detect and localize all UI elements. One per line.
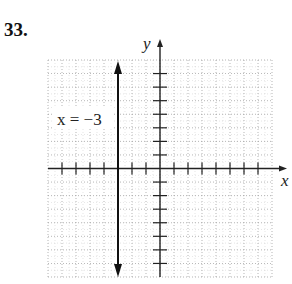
line-label: x = −3 <box>57 110 102 129</box>
axes <box>48 39 287 277</box>
line-arrow-up-icon <box>114 61 122 74</box>
y-axis-arrow-icon <box>157 39 163 47</box>
x-axis-label: x <box>280 171 289 190</box>
line-arrow-down-icon <box>114 264 122 277</box>
coordinate-plane: x = −3 x y <box>0 0 292 284</box>
y-axis-label: y <box>141 34 151 53</box>
